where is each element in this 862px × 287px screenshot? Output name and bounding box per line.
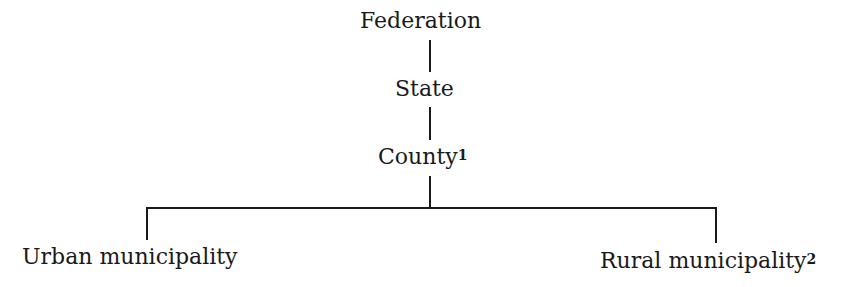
node-county-label: County (378, 144, 458, 169)
footnote-marker-1: 1 (458, 147, 468, 163)
node-rural-municipality: Rural municipality2 (600, 248, 816, 274)
node-federation-label: Federation (360, 8, 481, 33)
node-federation: Federation (360, 8, 481, 34)
connector-branch-rural (715, 207, 717, 243)
connector-county-branch (429, 176, 431, 209)
node-county: County1 (378, 144, 467, 170)
footnote-marker-2: 2 (807, 251, 817, 267)
connector-branch-urban (146, 207, 148, 240)
node-urban-label: Urban municipality (22, 244, 238, 269)
node-state: State (395, 76, 454, 102)
connector-federation-state (429, 40, 431, 72)
branch-horizontal-line (146, 207, 717, 209)
connector-state-county (429, 107, 431, 140)
node-state-label: State (395, 76, 454, 101)
node-rural-label: Rural municipality (600, 248, 807, 273)
node-urban-municipality: Urban municipality (22, 244, 238, 270)
